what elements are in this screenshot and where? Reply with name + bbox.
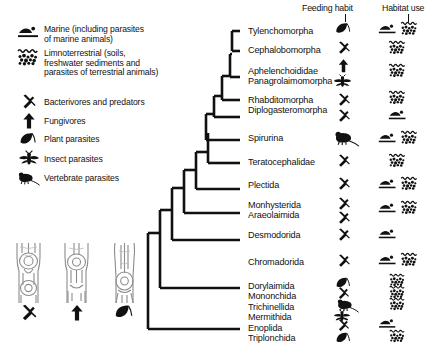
- stylet-bacterivore-icon: [336, 40, 352, 60]
- feeding-icons-row-4: [330, 131, 370, 149]
- taxon-tylenchomorpha: Tylenchomorpha: [248, 26, 313, 36]
- mouse-vertebrate-parasite-icon: [330, 129, 364, 151]
- feeding-icons-row-6: [336, 178, 366, 194]
- taxon-enoplida-triplonchida: Enoplida Triplonchida: [248, 323, 295, 344]
- habitat-icons-row-2: [388, 65, 436, 81]
- stylet-bacterivore-icon: [6, 303, 51, 323]
- leaf-plant-parasite-icon: [334, 21, 354, 40]
- limnoterrestrial-soil-icon: [400, 176, 420, 196]
- habitat-icons-row-5: [388, 155, 436, 171]
- habitat-icons-row-7: [378, 202, 436, 218]
- marine-swimmer-icon: [378, 227, 398, 245]
- stylet-bacterivore-icon: [336, 227, 352, 247]
- feeding-icons-row-0: [334, 22, 364, 38]
- limnoterrestrial-soil-icon: [388, 40, 408, 60]
- feeding-icons-row-1: [336, 42, 366, 58]
- limnoterrestrial-soil-icon: [388, 329, 408, 348]
- taxon-cephalobomorpha: Cephalobomorpha: [248, 45, 321, 55]
- limnoterrestrial-soil-icon: [400, 200, 420, 220]
- marine-swimmer-icon: [378, 253, 398, 271]
- stylet-bacterivore-icon: [336, 108, 352, 128]
- limnoterrestrial-soil-icon: [400, 252, 420, 272]
- stylet-bacterivore-icon: [336, 253, 352, 273]
- marine-swimmer-icon: [378, 131, 398, 149]
- habitat-icons-row-11b: [388, 331, 436, 346]
- feeding-icons-row-2b: [332, 76, 362, 92]
- limnoterrestrial-soil-icon: [388, 297, 408, 316]
- habitat-icons-row-0: [378, 23, 436, 39]
- marine-swimmer-icon: [388, 108, 408, 126]
- taxon-teratocephalidae: Teratocephalidae: [248, 157, 315, 167]
- marine-swimmer-icon: [378, 201, 398, 219]
- nematode-head-plant-parasite: [102, 243, 147, 307]
- habitat-icons-row-3b: [388, 110, 436, 124]
- limnoterrestrial-soil-icon: [388, 153, 408, 173]
- limnoterrestrial-soil-icon: [400, 130, 420, 150]
- taxon-desmodorida: Desmodorida: [248, 230, 300, 240]
- taxon-monhysterida-araeolaimida: Monhysterida Araeolaimida: [248, 200, 301, 221]
- feeding-icons-row-11b: [334, 332, 364, 347]
- feeding-icons-row-7b: [336, 212, 366, 228]
- leaf-plant-parasite-icon: [334, 331, 354, 349]
- habitat-icons-row-3a: [388, 92, 436, 108]
- habitat-icons-row-6: [378, 178, 436, 194]
- marine-swimmer-icon: [378, 22, 398, 40]
- figure-root: Marine (including parasitesof marine ani…: [0, 0, 439, 349]
- marine-swimmer-icon: [378, 177, 398, 195]
- habitat-icons-row-8: [378, 229, 426, 243]
- limnoterrestrial-soil-icon: [400, 21, 420, 41]
- habitat-icons-row-4: [378, 132, 436, 148]
- taxon-rhabditomorpha-diplogasteromorpha: Rhabditomorpha Diplogasteromorpha: [248, 95, 327, 116]
- feeding-icons-row-9: [336, 255, 366, 271]
- taxon-plectida: Plectida: [248, 180, 279, 190]
- limnoterrestrial-soil-icon: [388, 63, 408, 83]
- insect-parasite-icon: [332, 74, 353, 94]
- stylet-bacterivore-icon: [336, 176, 352, 196]
- habitat-icons-row-10c: [388, 299, 436, 313]
- nematode-head-fungivore: [54, 243, 99, 307]
- taxon-chromadorida: Chromadorida: [248, 257, 304, 267]
- feeding-icons-row-5: [336, 155, 366, 171]
- taxon-dorylaimida-group: Dorylaimida Mononchida Trichinellida Mer…: [248, 281, 296, 323]
- feeding-icons-row-3b: [336, 110, 366, 126]
- habitat-icons-row-1: [388, 42, 436, 58]
- taxon-aphelenchoididae-panagrolaimomorpha: Aphelenchoididae Panagrolaimomorpha: [248, 66, 332, 87]
- nematode-head-bacterivore: [6, 243, 51, 307]
- arrow-fungivore-icon: [54, 303, 99, 323]
- feeding-icons-row-8: [336, 229, 366, 245]
- leaf-plant-parasite-icon: [102, 303, 147, 321]
- habitat-icons-row-9: [378, 254, 436, 270]
- limnoterrestrial-soil-icon: [388, 90, 408, 110]
- nematode-head-drawings-panel: [0, 243, 150, 349]
- stylet-bacterivore-icon: [336, 153, 352, 173]
- taxon-spirurina: Spirurina: [248, 133, 283, 143]
